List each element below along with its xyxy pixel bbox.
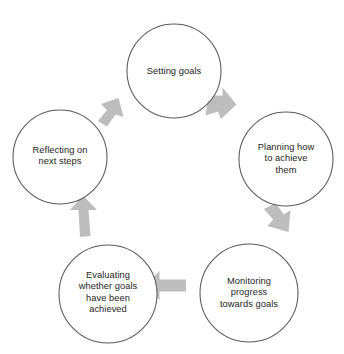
node-circle-setting-goals bbox=[127, 24, 221, 118]
arrow-planning-to-monitoring bbox=[264, 203, 291, 232]
cycle-diagram: Setting goals Planning how to achieve th… bbox=[0, 0, 344, 354]
node-circle-monitoring-progress-towards-goals bbox=[200, 244, 298, 342]
node-circle-evaluating-whether-goals-have-been-achieved bbox=[59, 245, 157, 343]
arrow-reflecting-to-setting bbox=[98, 98, 124, 127]
node-circle-planning-how-to-achieve-them bbox=[239, 112, 333, 206]
circle-layer bbox=[13, 24, 333, 343]
node-circle-reflecting-on-next-steps bbox=[13, 110, 107, 204]
cycle-diagram-canvas bbox=[0, 0, 344, 354]
